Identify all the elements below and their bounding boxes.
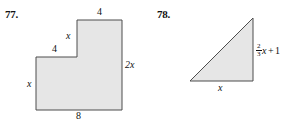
l-shaped-polygon xyxy=(36,20,122,110)
problem-77: 77. 4 x 4 x 2x 8 xyxy=(0,0,149,126)
label-right-vertical-2x: 2x xyxy=(125,60,134,70)
label-left-vertical-x: x xyxy=(27,79,31,89)
label-height-expression: 2 3 x + 1 xyxy=(256,43,280,59)
height-constant: 1 xyxy=(275,46,280,56)
label-base-x: x xyxy=(218,83,222,93)
triangle-figure xyxy=(149,0,298,126)
label-bottom-8: 8 xyxy=(76,111,81,121)
right-triangle xyxy=(190,18,253,81)
height-operator: + xyxy=(266,46,275,56)
label-middle-horizontal-4: 4 xyxy=(52,44,57,54)
label-inner-vertical-x: x xyxy=(66,31,70,41)
fraction-two-thirds: 2 3 xyxy=(256,43,262,59)
label-top-4: 4 xyxy=(97,7,102,17)
fraction-denominator: 3 xyxy=(256,50,262,58)
worksheet-page: 77. 4 x 4 x 2x 8 78. x 2 3 x + 1 xyxy=(0,0,298,126)
problem-78: 78. x 2 3 x + 1 xyxy=(149,0,298,126)
fraction-numerator: 2 xyxy=(256,43,262,50)
